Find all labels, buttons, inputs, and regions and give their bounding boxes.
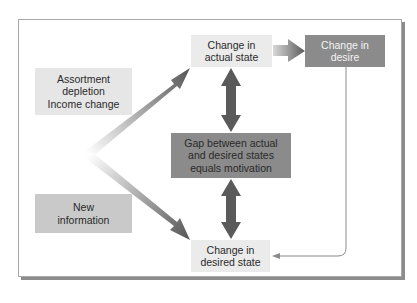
node-label: Change in desired state [200,244,260,269]
node-label: Gap between actual and desired states eq… [184,137,277,175]
node-label: Assortment depletion Income change [48,73,120,111]
node-new-information: New information [35,194,132,233]
node-change-in-actual-state: Change in actual state [191,35,272,67]
node-gap-motivation: Gap between actual and desired states eq… [171,133,291,178]
node-label: Change in actual state [205,39,259,64]
arrow-to-desire [273,39,305,62]
double-arrow-gap-desired [221,179,241,239]
node-label: Change in desire [321,39,369,64]
node-change-in-desire: Change in desire [305,35,385,67]
node-assortment-depletion: Assortment depletion Income change [35,68,132,115]
double-arrow-actual-gap [221,68,241,132]
node-label: New information [58,201,110,226]
node-change-in-desired-state: Change in desired state [191,240,270,272]
